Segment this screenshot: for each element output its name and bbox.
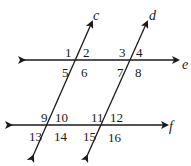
- angle-13: 13: [29, 129, 42, 144]
- angle-15: 15: [83, 129, 96, 144]
- angle-14: 14: [54, 129, 68, 144]
- label-line-c: c: [93, 8, 100, 23]
- angle-9: 9: [41, 110, 48, 125]
- angle-5: 5: [62, 65, 69, 80]
- angle-3: 3: [119, 45, 126, 60]
- angle-2: 2: [83, 45, 90, 60]
- angle-diagram: c d e f 1 2 5 6 3 4 7 8 9 10 13 14 11 12…: [0, 0, 191, 166]
- label-line-e: e: [182, 57, 188, 72]
- angle-8: 8: [135, 65, 142, 80]
- angle-16: 16: [108, 130, 122, 145]
- angle-7: 7: [117, 65, 124, 80]
- angle-12: 12: [110, 110, 123, 125]
- angle-11: 11: [91, 110, 104, 125]
- angle-6: 6: [81, 65, 88, 80]
- label-line-f: f: [169, 119, 175, 134]
- angle-10: 10: [55, 110, 68, 125]
- angle-1: 1: [65, 45, 72, 60]
- angle-4: 4: [136, 45, 143, 60]
- label-line-d: d: [149, 8, 157, 23]
